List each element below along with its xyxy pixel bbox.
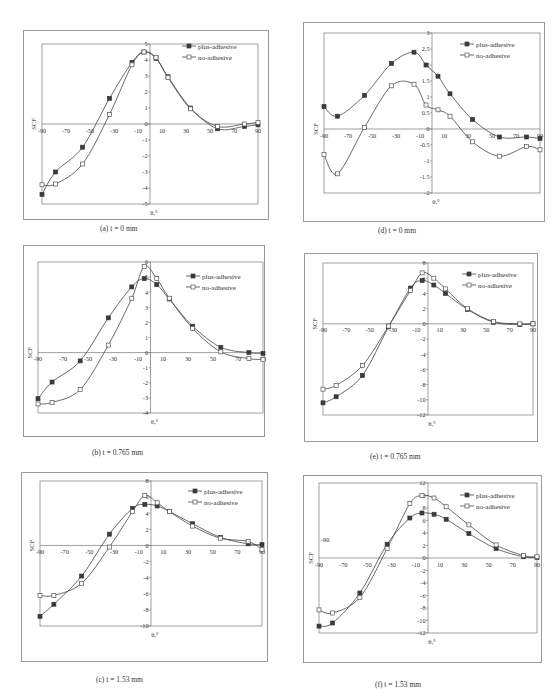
caption-a: (a) t = 0 mm	[100, 224, 138, 233]
y-tick-label: -12	[417, 629, 425, 636]
y-tick-label: 4	[422, 529, 425, 536]
x-tick-label: -10	[412, 561, 420, 568]
x-axis-title: θ,°	[428, 638, 436, 645]
data-point-no-adhesive	[358, 595, 362, 599]
data-point-no-adhesive	[494, 543, 498, 547]
x-tick-label: 90	[534, 561, 540, 568]
data-point-plus-adhesive	[432, 512, 436, 516]
legend-marker	[465, 504, 469, 508]
data-point-no-adhesive	[408, 502, 412, 506]
caption-f: (f) t = 1.53 mm	[375, 680, 421, 689]
y-axis-title: SCF	[307, 552, 314, 564]
data-point-plus-adhesive	[467, 532, 471, 536]
y-tick-label: 6	[422, 517, 425, 524]
data-point-plus-adhesive	[408, 516, 412, 520]
x-tick-label: 30	[461, 561, 467, 568]
data-point-no-adhesive	[467, 523, 471, 527]
data-point-no-adhesive	[420, 494, 424, 498]
y-tick-label: 0	[422, 554, 425, 561]
data-point-plus-adhesive	[420, 511, 424, 515]
data-point-plus-adhesive	[331, 621, 335, 625]
x-tick-label: -90	[315, 561, 323, 568]
data-point-no-adhesive	[317, 608, 321, 612]
x-tick-label: -30	[388, 561, 396, 568]
data-point-plus-adhesive	[444, 517, 448, 521]
data-point-plus-adhesive	[317, 624, 321, 628]
x-tick-label: -50	[363, 561, 371, 568]
caption-d: (d) t = 0 mm	[378, 226, 416, 235]
caption-c: (c) t = 1.53 mm	[96, 675, 143, 684]
legend-marker	[465, 493, 469, 497]
data-point-no-adhesive	[385, 547, 389, 551]
data-point-no-adhesive	[432, 496, 436, 500]
x-tick-label: -70	[339, 561, 347, 568]
caption-e: (e) t = 0.765 mm	[370, 452, 421, 461]
legend-label: plus-adhesive	[476, 492, 515, 500]
x-tick-label: 70	[510, 561, 516, 568]
y-tick-label: -4	[420, 579, 425, 586]
extra-label: -90	[321, 536, 329, 543]
y-tick-label: -8	[420, 604, 425, 611]
data-point-plus-adhesive	[358, 591, 362, 595]
data-point-no-adhesive	[444, 505, 448, 509]
y-tick-label: -10	[417, 617, 425, 624]
y-tick-label: -6	[420, 592, 425, 599]
y-tick-label: -2	[420, 567, 425, 574]
x-tick-label: 50	[485, 561, 491, 568]
data-point-no-adhesive	[521, 554, 525, 558]
data-point-no-adhesive	[331, 611, 335, 615]
data-point-no-adhesive	[535, 555, 539, 559]
y-tick-label: 8	[422, 504, 425, 511]
y-tick-label: 12	[419, 479, 425, 486]
chart-f: -12-10-8-6-4-2024681012-90-70-50-30-1010…	[0, 0, 560, 700]
caption-b: (b) t = 0.765 mm	[92, 448, 143, 457]
legend-label: no-adhesive	[476, 503, 510, 511]
y-tick-label: 2	[422, 542, 425, 549]
x-tick-label: 10	[437, 561, 443, 568]
